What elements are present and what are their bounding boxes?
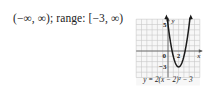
curve-right-arrow-icon (189, 15, 193, 20)
x-axis-label: x (196, 52, 201, 60)
tick-label: −3 (159, 63, 167, 71)
curve-left-arrow-icon (164, 15, 168, 20)
tick-label: 2 (177, 52, 181, 60)
parabola-graph: 502−3xyy = 2(x − 2)² − 3 (0, 0, 206, 89)
tick-label: 0 (163, 52, 167, 60)
equation-label: y = 2(x − 2)² − 3 (142, 76, 193, 84)
tick-label: 5 (163, 21, 167, 29)
